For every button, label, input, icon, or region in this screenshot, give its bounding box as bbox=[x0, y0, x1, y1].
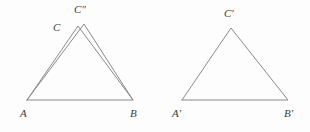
triangle-ABC-double-prime-outline bbox=[27, 24, 133, 100]
vertex-label-B: B bbox=[130, 108, 137, 119]
vertex-label-B-prime: B′ bbox=[284, 108, 293, 119]
vertex-label-A: A bbox=[20, 108, 27, 119]
vertex-label-C-prime: C′ bbox=[224, 8, 234, 19]
left-triangle-group bbox=[27, 24, 133, 100]
vertex-label-C: C bbox=[53, 22, 60, 33]
triangle-A-prime-B-prime-C-prime-outline bbox=[182, 28, 288, 100]
vertex-label-C-double-prime: C″ bbox=[74, 4, 86, 15]
triangle-ABC-outline bbox=[27, 26, 133, 100]
geometry-figure-canvas bbox=[0, 0, 310, 132]
vertex-label-A-prime: A′ bbox=[172, 108, 181, 119]
right-triangle-group bbox=[182, 28, 288, 100]
